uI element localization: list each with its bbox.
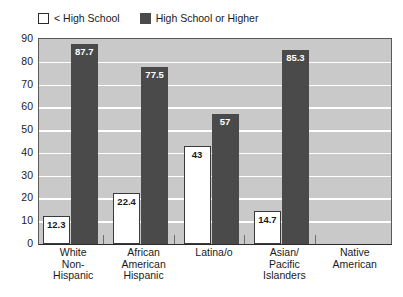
legend-entry-high-school-or-higher: High School or Higher (140, 13, 259, 24)
y-axis-tick-label: 40 (0, 147, 33, 158)
legend-swatch-icon-high-school-or-higher (140, 13, 151, 24)
bar-chart: 9080706050403020100 12.387.722.477.54357… (0, 30, 403, 297)
x-axis-category-line: Latina/o (179, 247, 249, 259)
x-axis-category-label: Asian/PacificIslanders (249, 247, 319, 282)
bar-value-label: 43 (192, 150, 203, 160)
bar-high-school-or-higher: 85.3 (282, 50, 309, 244)
y-axis: 9080706050403020100 (0, 30, 33, 243)
x-axis-category-line: American (320, 259, 390, 271)
y-axis-tick-label: 80 (0, 56, 33, 67)
category-separator-tick (244, 235, 245, 244)
plot-area: 12.387.722.477.5435714.785.3 (38, 38, 392, 245)
y-axis-tick-label: 90 (0, 33, 33, 44)
bar-less-than-high-school: 14.7 (254, 211, 281, 244)
legend-entry-less-than-high-school: < High School (38, 13, 120, 24)
x-axis-category-label: NativeAmerican (320, 247, 390, 270)
chart-legend: < High School High School or Higher (38, 8, 258, 28)
x-axis: WhiteNon-HispanicAfricanAmericanHispanic… (38, 247, 390, 297)
legend-label-high-school-or-higher: High School or Higher (156, 13, 259, 24)
y-axis-tick-label: 30 (0, 169, 33, 180)
x-axis-category-line: White (38, 247, 108, 259)
x-axis-category-line: Hispanic (38, 270, 108, 282)
y-axis-tick-label: 70 (0, 78, 33, 89)
bar-less-than-high-school: 43 (184, 146, 211, 244)
x-axis-category-line: Islanders (249, 270, 319, 282)
x-axis-category-line: Native (320, 247, 390, 259)
y-axis-tick-label: 0 (0, 238, 33, 249)
y-axis-tick-label: 10 (0, 215, 33, 226)
bar-less-than-high-school: 12.3 (43, 216, 70, 244)
bar-value-label: 12.3 (47, 220, 66, 230)
bar-high-school-or-higher: 77.5 (141, 67, 168, 244)
bar-value-label: 87.7 (75, 47, 94, 57)
bar-high-school-or-higher: 57 (212, 114, 239, 244)
bar-value-label: 22.4 (117, 197, 136, 207)
bar-value-label: 77.5 (145, 70, 164, 80)
x-axis-category-line: African (108, 247, 178, 259)
x-axis-category-label: WhiteNon-Hispanic (38, 247, 108, 282)
bar-value-label: 14.7 (258, 215, 277, 225)
category-separator-tick (103, 235, 104, 244)
category-separator-tick (174, 235, 175, 244)
bar-high-school-or-higher: 87.7 (71, 44, 98, 244)
x-axis-category-label: AfricanAmericanHispanic (108, 247, 178, 282)
category-separator-tick (315, 235, 316, 244)
x-axis-category-line: Hispanic (108, 270, 178, 282)
x-axis-category-line: Asian/ (249, 247, 319, 259)
legend-label-less-than-high-school: < High School (54, 13, 120, 24)
legend-swatch-icon-less-than-high-school (38, 13, 49, 24)
y-axis-tick-label: 50 (0, 124, 33, 135)
bar-value-label: 85.3 (286, 53, 305, 63)
x-axis-category-label: Latina/o (179, 247, 249, 259)
y-axis-tick-label: 20 (0, 192, 33, 203)
bar-value-label: 57 (220, 117, 231, 127)
bar-less-than-high-school: 22.4 (113, 193, 140, 244)
y-axis-tick-label: 60 (0, 101, 33, 112)
